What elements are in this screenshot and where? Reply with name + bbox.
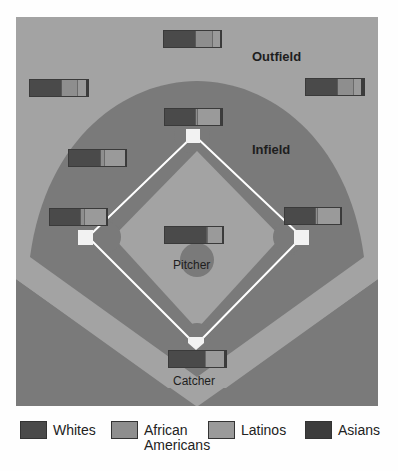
asians-segment (224, 351, 226, 367)
latinos-segment (212, 31, 220, 47)
asians-segment (220, 109, 222, 125)
legend-label: Latinos (241, 423, 286, 438)
left-field-bar (29, 79, 89, 97)
catcher-label: Catcher (173, 374, 215, 388)
legend-label: Whites (53, 423, 96, 438)
pitcher-bar (164, 226, 224, 244)
whites-segment (285, 208, 315, 224)
african-americans-swatch (111, 421, 138, 439)
asians-segment (220, 31, 221, 47)
african-americans-segment (61, 80, 77, 96)
latinos-segment (77, 80, 86, 96)
asians-swatch (305, 421, 332, 439)
third-base-bar (49, 208, 108, 226)
right-field-bar (305, 78, 365, 96)
whites-segment (30, 80, 61, 96)
legend-item-asians: Asians (305, 421, 380, 439)
second-base-bar (164, 108, 223, 126)
third-base-bag (78, 230, 93, 245)
latinos-segment (84, 209, 106, 225)
whites-segment (164, 31, 195, 47)
whites-segment (165, 109, 195, 125)
whites-segment (306, 79, 337, 95)
african-americans-segment (337, 79, 353, 95)
first-base-bar (284, 207, 342, 225)
infield-label: Infield (252, 142, 290, 157)
legend-label: Asians (338, 423, 380, 438)
latinos-segment (197, 109, 220, 125)
asians-segment (361, 79, 364, 95)
legend-item-whites: Whites (20, 421, 96, 439)
whites-segment (165, 227, 206, 243)
whites-segment (50, 209, 80, 225)
second-base-bag (186, 129, 200, 143)
asians-segment (222, 227, 223, 243)
asians-segment (86, 80, 88, 96)
legend: Whites African Americans Latinos Asians (20, 421, 390, 461)
baseball-field: Outfield Infield Pitcher Catcher (16, 17, 378, 406)
asians-segment (340, 208, 341, 224)
whites-segment (69, 150, 100, 166)
first-base-bag (294, 230, 309, 245)
latinos-segment (353, 79, 361, 95)
whites-segment (169, 351, 205, 367)
african-americans-segment (195, 31, 212, 47)
latinos-segment (205, 351, 224, 367)
pitcher-label: Pitcher (173, 258, 210, 272)
outfield-label: Outfield (252, 49, 301, 64)
asians-segment (125, 150, 126, 166)
whites-swatch (20, 421, 47, 439)
asians-segment (106, 209, 107, 225)
latinos-swatch (208, 421, 235, 439)
latinos-segment (317, 208, 339, 224)
shortstop-bar (68, 149, 127, 167)
latinos-segment (207, 227, 222, 243)
center-field-bar (163, 30, 222, 48)
latinos-segment (104, 150, 126, 166)
legend-item-latinos: Latinos (208, 421, 286, 439)
catcher-bar (168, 350, 227, 368)
